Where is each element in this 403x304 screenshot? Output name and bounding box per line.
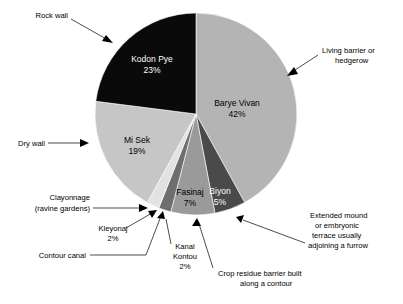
- slice-label-mi-sek-name: Mi Sek: [124, 135, 151, 145]
- outside-label-kleyonaj-name: Kleyonaj: [98, 224, 127, 233]
- pie-chart-svg: Barye Vivan 42% Biyon 5% Fasinaj 7% Mi S…: [0, 0, 403, 304]
- arrowhead-clayonnage: [139, 204, 148, 212]
- callout-extended-mound-line3: terrace usually: [312, 231, 362, 240]
- leader-line-kanal-kontou: [166, 219, 171, 244]
- leader-line-crop-residue: [199, 224, 213, 268]
- slice-label-kodon-pye-pct: 23%: [143, 65, 160, 75]
- callout-crop-residue-line2: along a contour: [240, 279, 293, 288]
- slice-label-fasinaj-pct: 7%: [184, 198, 197, 208]
- outside-label-kanal-kontou-pct: 2%: [180, 262, 191, 271]
- arrowhead-extended-mound: [236, 215, 244, 223]
- callout-clayonnage-line2: (ravine gardens): [35, 204, 91, 213]
- arrowhead-kleyonaj: [148, 210, 157, 218]
- leader-line-kleyonaj: [126, 213, 152, 228]
- leader-line-living-barrier: [292, 55, 318, 72]
- callout-dry-wall: Dry wall: [18, 139, 45, 148]
- slice-label-kodon-pye-name: Kodon Pye: [131, 54, 173, 64]
- slice-label-barye-vivan-pct: 42%: [228, 109, 245, 119]
- arrowhead-contour-canal: [157, 211, 165, 219]
- slice-label-barye-vivan-name: Barye Vivan: [214, 98, 260, 108]
- arrowhead-rock-wall: [102, 35, 113, 43]
- slice-label-fasinaj-name: Fasinaj: [176, 187, 204, 197]
- leader-line-contour-canal-2: [146, 216, 161, 255]
- arrowhead-crop-residue: [192, 218, 201, 226]
- callout-extended-mound-line4: adjoining a furrow: [308, 241, 368, 250]
- callout-living-barrier-line2: hedgerow: [335, 56, 369, 65]
- leader-line-rock-wall: [71, 19, 108, 40]
- callout-extended-mound-line1: Extended mound: [310, 211, 367, 220]
- slice-label-biyon-name: Biyon: [209, 186, 231, 196]
- pie-slices: [95, 13, 297, 215]
- callout-crop-residue-line1: Crop residue barrier built: [218, 269, 302, 278]
- callout-extended-mound-line2: or embryonic: [315, 221, 359, 230]
- leader-line-extended-mound: [243, 220, 305, 243]
- arrowhead-dry-wall: [80, 139, 89, 147]
- callout-living-barrier-line1: Living barrier or: [322, 46, 375, 55]
- outside-label-kanal-kontou-line2: Kontou: [173, 252, 197, 261]
- callout-clayonnage-line1: Clayonnage: [49, 193, 90, 202]
- pie-chart-figure: Barye Vivan 42% Biyon 5% Fasinaj 7% Mi S…: [0, 0, 403, 304]
- outside-label-kanal-kontou-line1: Kanal: [175, 242, 195, 251]
- slice-label-biyon-pct: 5%: [214, 197, 227, 207]
- outside-slice-labels: Kleyonaj 2% Kanal Kontou 2%: [98, 224, 197, 271]
- callout-rock-wall: Rock wall: [36, 11, 69, 20]
- arrowhead-living-barrier: [287, 67, 298, 76]
- slice-label-mi-sek-pct: 19%: [128, 146, 145, 156]
- outside-label-kleyonaj-pct: 2%: [108, 234, 119, 243]
- callout-contour-canal: Contour canal: [39, 251, 87, 260]
